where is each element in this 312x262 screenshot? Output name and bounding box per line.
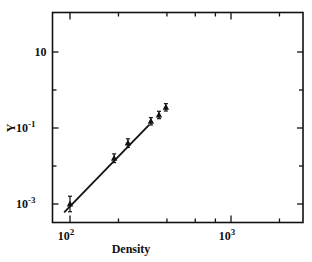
x-tick-label: 102 [58,227,75,243]
y-tick-label: 10-1 [16,119,36,135]
fit-line-segment [64,125,149,212]
data-point [125,139,131,148]
x-tick-label: 103 [219,227,236,243]
y-axis-title: Y [4,123,18,132]
triangle-marker [148,118,154,124]
chart: 1021031010-110-3 Density Y [0,0,312,262]
data-point [148,118,154,125]
triangle-marker [163,104,169,110]
triangle-marker [156,111,162,117]
triangle-marker [125,140,131,146]
data-point [163,104,169,111]
plot-frame [53,13,304,223]
data-point [156,111,162,118]
fit-line [64,125,149,212]
x-axis-title: Density [112,242,151,256]
axis-ticks [53,13,304,223]
y-tick-label: 10 [35,45,47,59]
y-tick-label: 10-3 [16,195,36,211]
